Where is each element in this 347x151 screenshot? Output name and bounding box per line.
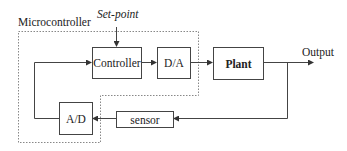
output-label: Output	[302, 47, 334, 59]
ad-converter-block: A/D	[59, 102, 93, 135]
plant-block: Plant	[213, 47, 264, 80]
controller-block: Controller	[92, 47, 142, 79]
setpoint-label: Set-point	[97, 9, 139, 21]
sensor-block: sensor	[116, 111, 174, 128]
microcontroller-label: Microcontroller	[18, 17, 91, 29]
da-converter-block: D/A	[157, 47, 191, 79]
